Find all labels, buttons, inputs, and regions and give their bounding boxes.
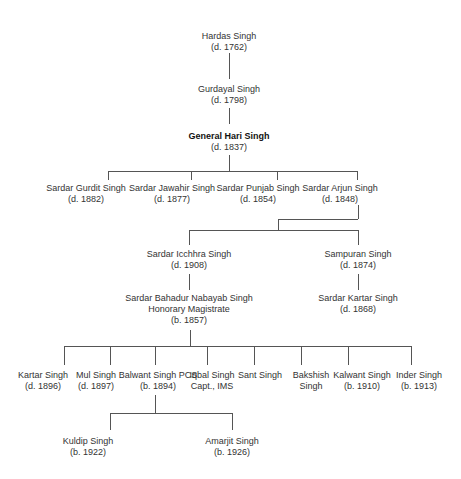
connector xyxy=(254,346,255,365)
person-name: Hardas Singh xyxy=(202,31,257,42)
person-title: Capt., IMS xyxy=(189,381,234,392)
person-name: Inder Singh xyxy=(396,370,442,381)
person-dates: (d. 1837) xyxy=(188,142,269,153)
connector xyxy=(207,346,208,365)
person-sampuran-singh: Sampuran Singh (d. 1874) xyxy=(324,249,391,271)
connector xyxy=(411,346,412,365)
person-iqbal-singh: Iqbal Singh Capt., IMS xyxy=(189,370,234,392)
connector xyxy=(155,346,156,365)
connector xyxy=(64,346,65,365)
connector xyxy=(301,346,302,365)
person-nabayab-singh: Sardar Bahadur Nabayab Singh Honorary Ma… xyxy=(125,293,253,326)
person-dates: (d. 1854) xyxy=(216,194,299,205)
person-dates: (d. 1896) xyxy=(18,381,68,392)
person-dates: (d. 1874) xyxy=(324,260,391,271)
connector xyxy=(277,171,278,180)
connector xyxy=(278,219,279,230)
person-dates: (b. 1910) xyxy=(333,381,391,392)
connector xyxy=(108,171,109,180)
person-dates: (d. 1848) xyxy=(302,194,378,205)
person-name: Kalwant Singh xyxy=(333,370,391,381)
person-name: Kartar Singh xyxy=(18,370,68,381)
person-name: Sardar Arjun Singh xyxy=(302,183,378,194)
person-name: Sardar Icchhra Singh xyxy=(147,249,232,260)
person-kuldip-singh: Kuldip Singh (b. 1922) xyxy=(63,436,114,458)
person-name: Kuldip Singh xyxy=(63,436,114,447)
connector xyxy=(348,346,349,365)
connector xyxy=(357,171,358,180)
person-name: Sampuran Singh xyxy=(324,249,391,260)
person-dates: (d. 1882) xyxy=(46,194,126,205)
person-hardas-singh: Hardas Singh (d. 1762) xyxy=(202,31,257,53)
person-dates: (b. 1913) xyxy=(396,381,442,392)
person-kartar-singh: Kartar Singh (d. 1896) xyxy=(18,370,68,392)
person-inder-singh: Inder Singh (b. 1913) xyxy=(396,370,442,392)
person-punjab-singh: Sardar Punjab Singh (d. 1854) xyxy=(216,183,299,205)
person-arjun-singh: Sardar Arjun Singh (d. 1848) xyxy=(302,183,378,205)
connector xyxy=(358,274,359,290)
connector xyxy=(189,230,190,245)
connector xyxy=(64,346,411,347)
connector xyxy=(190,330,191,346)
person-name: Amarjit Singh xyxy=(205,436,259,447)
person-name: Sardar Kartar Singh xyxy=(318,293,398,304)
person-gurdit-singh: Sardar Gurdit Singh (d. 1882) xyxy=(46,183,126,205)
person-bakshish-singh: Bakshish Singh xyxy=(293,370,330,392)
person-name: Sardar Gurdit Singh xyxy=(46,183,126,194)
person-name: Sardar Bahadur Nabayab Singh xyxy=(125,293,253,304)
person-dates: (d. 1868) xyxy=(318,304,398,315)
person-title: Honorary Magistrate xyxy=(125,304,253,315)
person-kalwant-singh: Kalwant Singh (b. 1910) xyxy=(333,370,391,392)
connector xyxy=(110,413,111,430)
person-icchhra-singh: Sardar Icchhra Singh (d. 1908) xyxy=(147,249,232,271)
connector xyxy=(110,346,111,365)
connector xyxy=(232,413,233,430)
person-dates: (b. 1922) xyxy=(63,447,114,458)
person-dates: (d. 1798) xyxy=(198,95,260,106)
person-name: Mul Singh xyxy=(76,370,116,381)
connector xyxy=(108,171,358,172)
connector xyxy=(110,413,232,414)
connector xyxy=(358,230,359,245)
person-name: Sant Singh xyxy=(238,370,282,381)
person-dates: (b. 1926) xyxy=(205,447,259,458)
person-amarjit-singh: Amarjit Singh (b. 1926) xyxy=(205,436,259,458)
connector xyxy=(229,108,230,124)
person-dates: (b. 1894) xyxy=(119,381,198,392)
person-name: Iqbal Singh xyxy=(189,370,234,381)
person-dates: (b. 1857) xyxy=(125,315,253,326)
person-name-cont: Singh xyxy=(293,381,330,392)
connector xyxy=(358,205,359,219)
connector xyxy=(229,53,230,79)
person-name: Sardar Jawahir Singh xyxy=(129,183,215,194)
person-mul-singh: Mul Singh (d. 1897) xyxy=(76,370,116,392)
person-name: General Hari Singh xyxy=(188,131,269,142)
connector xyxy=(229,155,230,171)
person-dates: (d. 1908) xyxy=(147,260,232,271)
person-dates: (d. 1877) xyxy=(129,194,215,205)
person-jawahir-singh: Sardar Jawahir Singh (d. 1877) xyxy=(129,183,215,205)
person-dates: (d. 1897) xyxy=(76,381,116,392)
connector xyxy=(155,395,156,413)
connector xyxy=(191,171,192,180)
connector xyxy=(189,274,190,290)
person-name: Balwant Singh PCS xyxy=(119,370,198,381)
person-balwant-singh: Balwant Singh PCS (b. 1894) xyxy=(119,370,198,392)
person-name: Gurdayal Singh xyxy=(198,84,260,95)
person-sardar-kartar-singh: Sardar Kartar Singh (d. 1868) xyxy=(318,293,398,315)
person-name: Sardar Punjab Singh xyxy=(216,183,299,194)
person-dates: (d. 1762) xyxy=(202,42,257,53)
connector xyxy=(278,219,358,220)
person-sant-singh: Sant Singh xyxy=(238,370,282,381)
person-gurdayal-singh: Gurdayal Singh (d. 1798) xyxy=(198,84,260,106)
person-general-hari-singh: General Hari Singh (d. 1837) xyxy=(188,131,269,153)
connector xyxy=(189,230,358,231)
person-name: Bakshish xyxy=(293,370,330,381)
